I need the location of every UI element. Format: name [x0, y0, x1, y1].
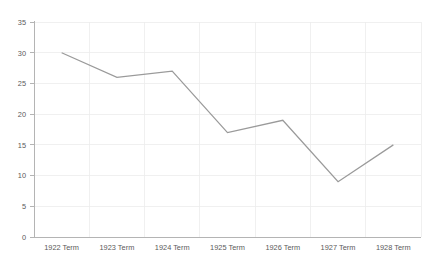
x-tick-label-1928: 1928 Term	[376, 243, 411, 252]
x-tick-label-1925: 1925 Term	[210, 243, 245, 252]
y-tick-label-15: 15	[18, 141, 26, 150]
x-tick-label-1923: 1923 Term	[100, 243, 135, 252]
x-tick-label-1926: 1926 Term	[265, 243, 300, 252]
chart-background	[0, 0, 429, 274]
y-tick-label-5: 5	[22, 202, 26, 211]
x-tick-label-1922: 1922 Term	[44, 243, 79, 252]
y-tick-label-20: 20	[18, 110, 26, 119]
x-tick-label-1927: 1927 Term	[321, 243, 356, 252]
y-tick-label-10: 10	[18, 171, 26, 180]
y-tick-label-35: 35	[18, 18, 26, 27]
line-chart: 35 30 25 20 15 10 5 0 1922 Term 1923 Ter…	[0, 0, 429, 274]
chart-canvas: 35 30 25 20 15 10 5 0 1922 Term 1923 Ter…	[0, 0, 429, 274]
y-tick-label-0: 0	[22, 233, 26, 242]
y-tick-label-30: 30	[18, 49, 26, 58]
y-tick-label-25: 25	[18, 79, 26, 88]
x-tick-label-1924: 1924 Term	[155, 243, 190, 252]
